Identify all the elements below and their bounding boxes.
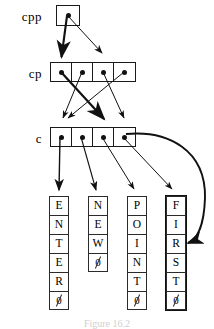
string-column-point: POINT0	[127, 196, 147, 310]
char-cell-null: 0	[88, 253, 108, 272]
pointer-box-cpp	[56, 5, 80, 26]
char-cell: O	[127, 215, 147, 234]
label-cp: cp	[0, 66, 42, 82]
label-c: c	[0, 131, 42, 147]
pointer-cell-c-0	[51, 128, 72, 146]
pointer-array-cp	[50, 62, 136, 82]
pointer-cell-cpp-0	[57, 6, 79, 25]
char-cell: N	[49, 215, 69, 234]
pointer-cell-cp-3	[114, 63, 135, 81]
char-cell: I	[127, 234, 147, 253]
null-terminator-icon: 0	[134, 295, 140, 306]
char-cell: N	[88, 196, 108, 215]
char-cell: W	[88, 234, 108, 253]
string-column-first: FIRST0	[166, 196, 186, 310]
null-terminator-icon: 0	[56, 295, 62, 306]
pointer-array-c	[50, 127, 136, 147]
pointer-dot-icon	[101, 135, 106, 140]
pointer-cell-cp-0	[51, 63, 72, 81]
char-cell: N	[127, 253, 147, 272]
char-cell: E	[49, 253, 69, 272]
char-cell-null: 0	[127, 291, 147, 310]
char-cell-null: 0	[49, 291, 69, 310]
char-cell: E	[49, 196, 69, 215]
label-cpp: cpp	[0, 9, 42, 25]
char-cell: T	[49, 234, 69, 253]
char-cell: R	[166, 234, 186, 253]
null-terminator-icon: 0	[173, 295, 179, 306]
pointer-cell-c-1	[72, 128, 93, 146]
char-cell: T	[166, 272, 186, 291]
pointer-cell-cp-1	[72, 63, 93, 81]
pointer-dot-icon	[80, 135, 85, 140]
pointer-dot-icon	[80, 70, 85, 75]
char-cell: R	[49, 272, 69, 291]
char-cell: F	[166, 196, 186, 215]
figure-caption: Figure 16.2	[0, 318, 214, 329]
string-column-new: NEW0	[88, 196, 108, 272]
null-terminator-icon: 0	[95, 257, 101, 268]
char-cell: T	[127, 272, 147, 291]
pointer-dot-icon	[122, 135, 127, 140]
char-cell: P	[127, 196, 147, 215]
pointer-dot-icon	[66, 13, 71, 18]
char-cell: E	[88, 215, 108, 234]
pointer-cell-c-3	[114, 128, 135, 146]
pointer-cell-c-2	[93, 128, 114, 146]
char-cell-null: 0	[166, 291, 186, 310]
pointer-cell-cp-2	[93, 63, 114, 81]
pointer-dot-icon	[59, 135, 64, 140]
char-cell: I	[166, 215, 186, 234]
char-cell: S	[166, 253, 186, 272]
pointer-dot-icon	[59, 70, 64, 75]
pointer-dot-icon	[122, 70, 127, 75]
pointer-dot-icon	[101, 70, 106, 75]
string-column-enter: ENTER0	[49, 196, 69, 310]
